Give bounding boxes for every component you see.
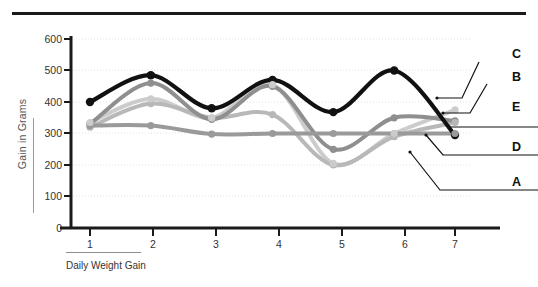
data-point-B-5	[330, 130, 337, 137]
x-tick-3: 3	[204, 238, 228, 250]
x-tick-5: 5	[330, 238, 354, 250]
data-point-C-4	[269, 81, 276, 88]
data-point-B-4	[269, 130, 276, 137]
legend-label-A: A	[512, 175, 528, 189]
leader-line-C	[437, 62, 479, 98]
legend-label-D: D	[512, 140, 528, 154]
data-point-A-3	[208, 104, 216, 112]
data-point-D-5	[330, 146, 337, 153]
data-point-C-6	[391, 130, 398, 137]
data-point-B-3	[208, 131, 215, 138]
data-point-C-1	[86, 119, 93, 126]
data-point-B-2	[147, 122, 154, 129]
data-point-C-5	[330, 160, 337, 167]
data-point-C-2	[147, 95, 154, 102]
data-point-E-7	[451, 119, 458, 126]
legend-label-B: B	[512, 70, 528, 84]
x-tick-4: 4	[267, 238, 291, 250]
data-point-C-3	[208, 114, 215, 121]
data-point-B-7	[451, 130, 458, 137]
data-point-E-4	[269, 111, 276, 118]
x-tick-7: 7	[443, 238, 467, 250]
data-point-A-6	[390, 66, 398, 74]
chart-page: Gain in Grams 600 500 400 300 200 100 0	[0, 0, 538, 287]
axes	[60, 36, 500, 236]
data-point-A-5	[329, 108, 337, 116]
x-axis-title-rule	[66, 252, 141, 253]
chart-figure: Gain in Grams 600 500 400 300 200 100 0	[0, 0, 538, 287]
legend-label-C: C	[512, 47, 528, 61]
x-tick-1: 1	[78, 238, 102, 250]
x-axis-title: Daily Weight Gain	[66, 260, 146, 271]
legend-label-E: E	[512, 100, 528, 114]
data-point-D-2	[147, 80, 154, 87]
x-tick-2: 2	[141, 238, 165, 250]
data-point-D-6	[391, 114, 398, 121]
data-point-A-2	[147, 71, 155, 79]
data-point-A-1	[86, 98, 94, 106]
x-tick-6: 6	[393, 238, 417, 250]
